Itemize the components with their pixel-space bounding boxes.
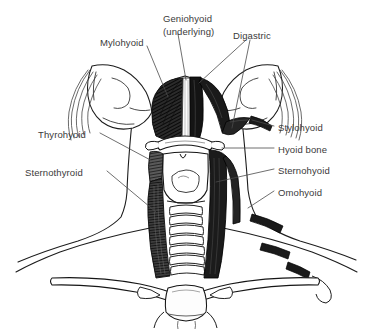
label-stylohyoid: Stylohyoid xyxy=(278,122,323,134)
thyroid-cartilage xyxy=(163,152,209,203)
label-sternothyroid: Sternothyroid xyxy=(25,167,83,179)
thyrohyoid-muscle xyxy=(149,151,164,182)
label-digastric: Digastric xyxy=(233,30,271,42)
label-omohyoid: Omohyoid xyxy=(278,187,322,199)
label-geniohyoid-note: (underlying) xyxy=(163,26,214,39)
label-hyoid-bone: Hyoid bone xyxy=(278,144,327,156)
digastric-anterior-belly xyxy=(190,77,203,140)
label-mylohyoid: Mylohyoid xyxy=(100,37,144,49)
label-sternohyoid: Sternohyoid xyxy=(278,165,330,177)
anatomy-figure-page: Mylohyoid Geniohyoid (underlying) Digast… xyxy=(0,0,370,329)
label-thyrohyoid: Thyrohyoid xyxy=(38,129,86,141)
label-geniohyoid: Geniohyoid xyxy=(163,13,212,26)
